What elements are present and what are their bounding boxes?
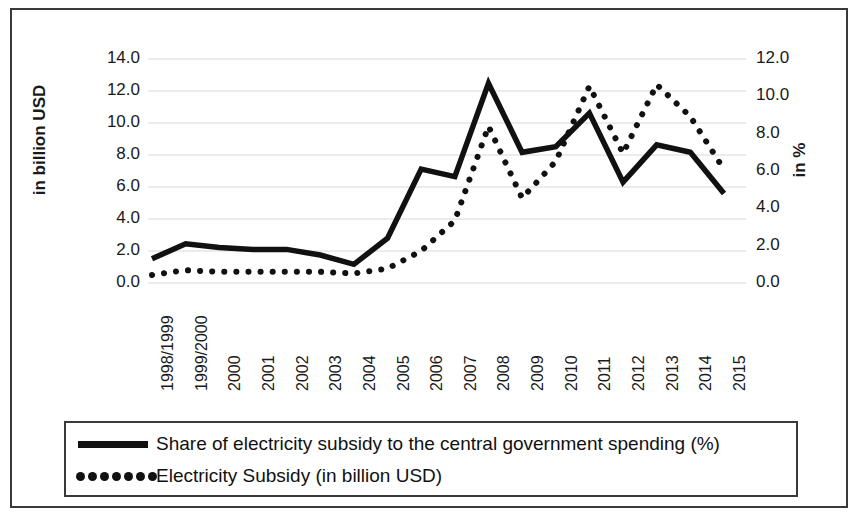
legend-solid-line-icon <box>74 434 152 454</box>
legend-dotted-line-icon <box>74 466 152 486</box>
legend-label-subsidy: Electricity Subsidy (in billion USD) <box>156 465 442 487</box>
series-line-0 <box>152 83 724 264</box>
chart-figure: in billion USD in % 0.02.04.06.08.010.01… <box>10 8 848 508</box>
legend-label-share: Share of electricity subsidy to the cent… <box>156 433 720 455</box>
legend-item-share: Share of electricity subsidy to the cent… <box>74 429 720 459</box>
chart-legend: Share of electricity subsidy to the cent… <box>64 421 798 497</box>
legend-item-subsidy: Electricity Subsidy (in billion USD) <box>74 461 442 491</box>
